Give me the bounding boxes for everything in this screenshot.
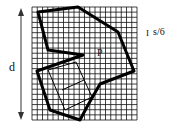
scale-label: s/6: [153, 27, 165, 37]
dimension-arrow: [18, 8, 24, 120]
point-label: P: [97, 48, 103, 58]
dimension-label: d: [9, 61, 15, 73]
scale-marker: I: [146, 29, 149, 38]
inner-divider: [62, 80, 84, 90]
grid-diagram: [0, 0, 176, 131]
